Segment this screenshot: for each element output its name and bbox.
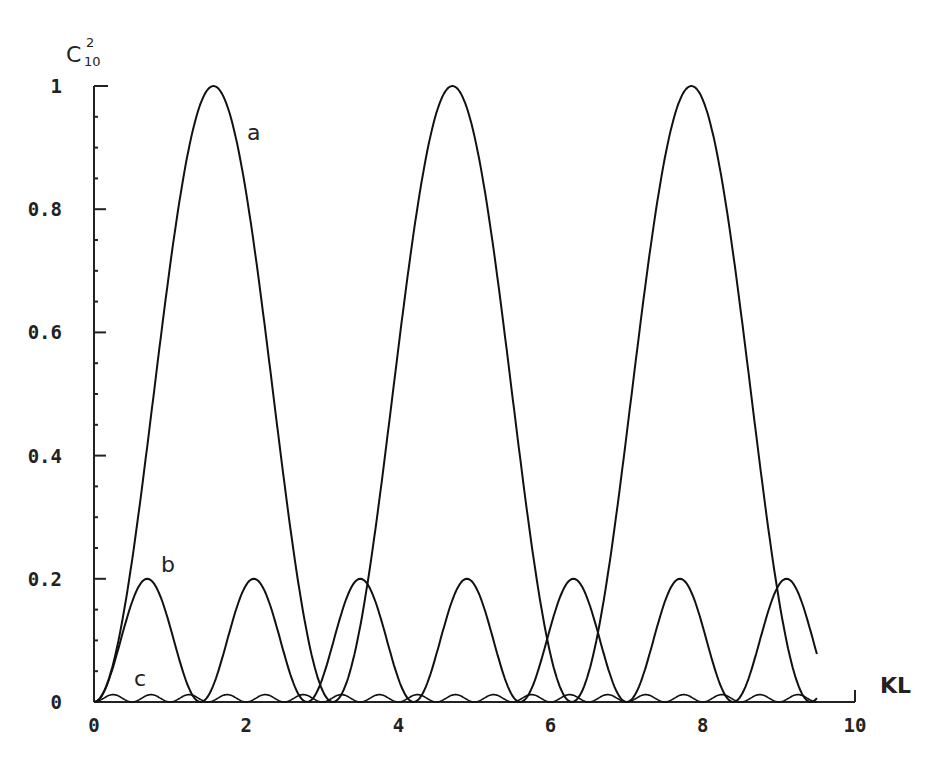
series-b-curve	[94, 579, 817, 702]
x-ticks: 0246810	[88, 714, 866, 736]
series-a-curve	[94, 86, 817, 702]
series-c-curve	[94, 695, 817, 702]
series-a-label: a	[247, 120, 260, 145]
y-tick-label: 0.2	[28, 568, 62, 590]
x-tick-label: 10	[844, 714, 867, 736]
x-tick-label: 2	[240, 714, 251, 736]
plot-curves	[94, 86, 817, 702]
x-tick-label: 4	[393, 714, 404, 736]
x-tick-label: 6	[545, 714, 556, 736]
y-tick-label: 1	[51, 75, 62, 97]
y-axis-title-sup: 2	[86, 35, 94, 50]
y-tick-label: 0.6	[28, 321, 62, 343]
y-axis-title-sub: 10	[84, 54, 101, 69]
y-tick-label: 0.4	[28, 445, 62, 467]
x-tick-label: 8	[697, 714, 708, 736]
y-tick-label: 0	[51, 691, 62, 713]
axes: 00.20.40.60.81 0246810	[28, 75, 867, 736]
y-axis-title: C 2 10	[66, 35, 101, 69]
series-b-label: b	[161, 552, 175, 577]
y-tick-label: 0.8	[28, 198, 62, 220]
x-axis-title: KL	[880, 673, 911, 698]
y-axis-title-main: C	[66, 42, 81, 67]
chart-canvas: 00.20.40.60.81 0246810 C 2 10 KL a b c	[0, 0, 951, 778]
series-c-label: c	[134, 666, 146, 691]
x-tick-label: 0	[88, 714, 99, 736]
